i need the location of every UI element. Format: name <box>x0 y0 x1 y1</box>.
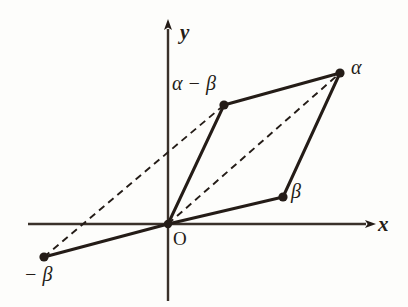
point-neg-beta-dot <box>39 252 48 261</box>
origin-label: O <box>173 229 187 248</box>
x-axis-label: x <box>378 214 389 235</box>
point-beta-dot <box>278 192 287 201</box>
point-origin-dot <box>164 220 172 228</box>
figure-canvas <box>0 0 408 307</box>
y-axis-label: y <box>180 22 189 43</box>
point-label-alpha: α <box>351 57 362 77</box>
edge-beta-to-alpha <box>283 73 340 197</box>
complex-plane-figure: y x O α α − β β − β <box>0 0 408 307</box>
solid-edges-group <box>44 73 340 257</box>
point-alpha-beta-dot <box>219 100 228 109</box>
point-label-alpha-minus-beta: α − β <box>172 73 216 93</box>
edge-origin-to-alpha-minus-beta <box>168 105 224 224</box>
point-label-neg-beta: − β <box>24 264 52 284</box>
point-label-beta: β <box>291 181 301 201</box>
dashed-edges-group <box>44 73 340 257</box>
point-alpha-dot <box>335 68 344 77</box>
edge-origin-to-beta <box>168 197 283 224</box>
